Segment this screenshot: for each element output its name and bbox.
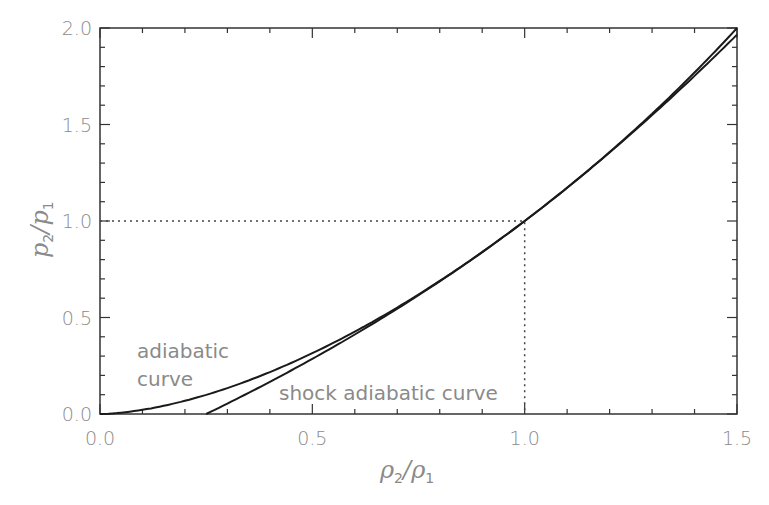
x-tick-label: 1.0 [510, 427, 540, 449]
annotation-shock-adiabatic: shock adiabatic curve [279, 381, 498, 405]
annotation-curve: curve [137, 367, 193, 391]
x-tick-label: 0.5 [297, 427, 327, 449]
x-tick-label: 0.0 [85, 427, 115, 449]
y-tick-label: 2.0 [62, 17, 92, 39]
y-tick-label: 1.5 [62, 114, 92, 136]
x-axis-label: ρ2/ρ1 [379, 456, 434, 486]
y-tick-label: 0.5 [62, 307, 92, 329]
annotation-adiabatic: adiabatic [137, 339, 229, 363]
y-tick-label: 1.0 [62, 210, 92, 232]
y-axis-label: p2/p1 [26, 201, 56, 258]
y-tick-label: 0.0 [62, 403, 92, 425]
chart: 0.00.51.01.50.00.51.01.52.0 adiabatic cu… [0, 0, 769, 505]
x-tick-label: 1.5 [722, 427, 752, 449]
shock-adiabatic-curve-line [206, 28, 737, 414]
